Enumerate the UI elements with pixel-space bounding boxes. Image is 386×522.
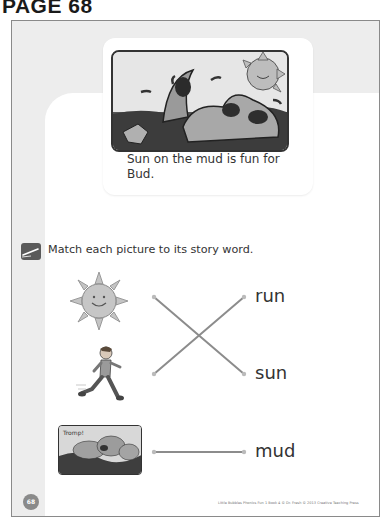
- matching-lines: [0, 0, 386, 522]
- dot-left-2: [152, 372, 156, 376]
- dot-left-3: [152, 450, 156, 454]
- dot-right-1: [242, 295, 246, 299]
- word-run[interactable]: run: [255, 285, 285, 306]
- word-sun[interactable]: sun: [255, 362, 287, 383]
- dot-left-1: [152, 295, 156, 299]
- page-number-badge: 68: [23, 494, 39, 510]
- dot-right-2: [242, 372, 246, 376]
- dot-right-3: [242, 450, 246, 454]
- word-mud[interactable]: mud: [255, 440, 295, 461]
- footer-credit: Little Bubbles Phonics Fun 1 Book 4 © Dr…: [218, 501, 359, 505]
